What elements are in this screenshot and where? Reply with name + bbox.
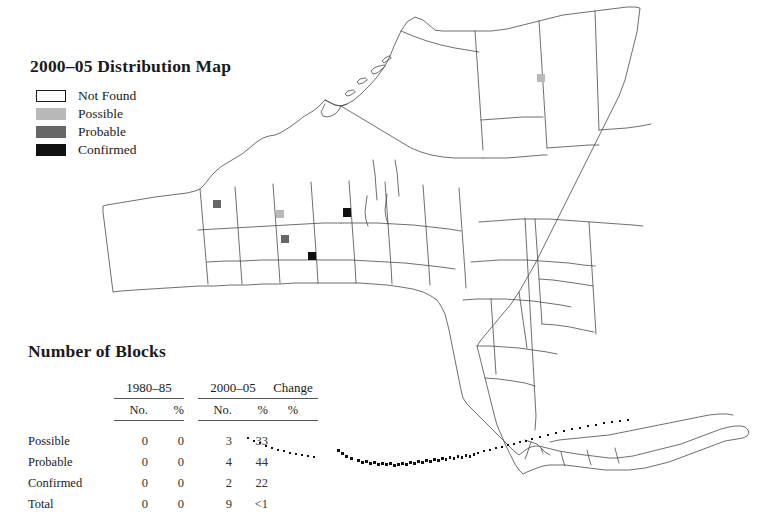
cell-p2-pct: 22 [232,470,268,491]
sub-header-p1-no: No. [114,399,148,420]
county-line-w5 [349,181,356,283]
cell-p1-pct: 0 [148,470,184,491]
county-line-e9 [542,324,594,332]
group-header-period1: 1980–85 [114,380,184,398]
county-line-n8 [341,106,483,158]
cell-p2-no: 9 [198,491,232,512]
nyc-boroughs [525,440,550,459]
cell-p1-pct: 0 [148,428,184,449]
legend: 2000–05 Distribution Map Not Found Possi… [30,56,290,159]
county-line-n1 [475,31,483,150]
cell-p2-pct: <1 [232,491,268,512]
finger-lake-1 [365,196,368,226]
county-line-e1 [479,219,643,226]
county-line-w4 [311,182,318,283]
county-line-e3 [463,299,571,307]
legend-label-confirmed: Confirmed [78,143,137,157]
legend-label-probable: Probable [78,125,126,139]
map-marker-possible-1 [276,210,284,218]
table-row: Confirmed 0 0 2 22 [28,470,318,491]
county-line-n4 [401,31,479,52]
county-line-li3 [615,448,619,463]
legend-item-possible: Possible [36,105,290,123]
map-marker-probable-1 [213,200,221,208]
legend-label-possible: Possible [78,107,123,121]
county-line-e5 [589,222,596,334]
blocks-table: 1980–85 2000–05 Change No. % No. % [28,380,318,512]
county-line-w2 [235,187,242,284]
cell-change [268,470,318,491]
table-group-header-row: 1980–85 2000–05 Change [28,380,318,398]
sub-header-p2-pct: % [232,399,268,420]
legend-title: 2000–05 Distribution Map [30,56,290,77]
cell-p1-no: 0 [114,428,148,449]
table-row: Total 0 0 9 <1 [28,491,318,512]
county-line-e10 [539,279,593,286]
map-marker-possible-2 [537,74,545,82]
county-line-n2 [539,21,547,148]
county-line-n9 [483,155,547,158]
county-line-n7 [599,124,651,130]
county-line-h2 [341,223,461,231]
map-marker-confirmed-1 [308,252,316,260]
cell-p2-pct: 33 [232,428,268,449]
table-row: Possible 0 0 3 33 [28,428,318,449]
map-marker-confirmed-2 [343,208,351,217]
county-line-c2 [395,160,399,196]
county-line-li1 [561,452,565,466]
cell-p2-no: 3 [198,428,232,449]
row-label-probable: Probable [28,449,114,470]
county-line-e2 [471,260,595,266]
county-line-w1 [200,189,208,284]
county-line-w8 [459,188,466,288]
long-island-sound [550,414,733,442]
number-of-blocks-section: Number of Blocks 1980–85 2000–05 Change [28,341,348,512]
cell-change [268,449,318,470]
county-line-n6 [547,145,599,148]
group-header-period2: 2000–05 [198,380,268,398]
row-label-total: Total [28,491,114,512]
thousand-islands [345,56,391,96]
cell-p2-pct: 44 [232,449,268,470]
county-line-e8 [485,378,535,386]
cell-p2-no: 2 [198,470,232,491]
county-line-li2 [587,450,591,465]
table-row: Probable 0 0 4 44 [28,449,318,470]
county-line-c1 [373,160,377,200]
row-label-possible: Possible [28,428,114,449]
sub-header-p2-no: No. [198,399,232,420]
legend-swatch-not-found [36,90,66,102]
hudson-river [525,218,536,430]
cell-p1-pct: 0 [148,449,184,470]
county-line-w3 [273,184,280,283]
lake-ontario-shore [321,100,347,117]
map-marker-probable-2 [281,235,289,243]
sub-header-p1-pct: % [148,399,184,420]
cell-change [268,491,318,512]
legend-swatch-confirmed [36,144,66,156]
cell-p1-no: 0 [114,449,148,470]
legend-label-not-found: Not Found [78,89,136,103]
legend-swatch-probable [36,126,66,138]
cell-change [268,428,318,449]
legend-item-probable: Probable [36,123,290,141]
group-header-change: Change [268,380,318,398]
table-title: Number of Blocks [28,341,348,362]
county-line-h3 [207,260,455,269]
table-sub-header-row: No. % No. % % [28,399,318,420]
county-line-e6 [491,299,496,374]
legend-swatch-possible [36,108,66,120]
county-line-n5 [481,117,543,120]
county-line-w7 [423,185,430,285]
county-line-w6 [385,182,392,284]
legend-item-confirmed: Confirmed [36,141,290,159]
county-line-n3 [595,11,599,130]
corner-cell [28,380,114,398]
county-line-e7 [477,346,557,354]
county-line-e4 [535,219,542,324]
cell-p2-no: 4 [198,449,232,470]
cell-p1-no: 0 [114,470,148,491]
row-label-confirmed: Confirmed [28,470,114,491]
legend-item-not-found: Not Found [36,87,290,105]
county-line-h1 [198,223,341,230]
